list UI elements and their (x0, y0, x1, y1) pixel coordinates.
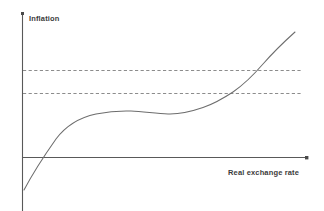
x-axis-arrow-icon (305, 156, 308, 159)
inflation-real-exchange-rate-chart: Inflation Real exchange rate (0, 0, 324, 211)
y-axis-label: Inflation (29, 14, 60, 23)
y-axis-arrow-icon (21, 12, 24, 15)
inflation-response-curve (24, 32, 295, 190)
plot-area (0, 0, 324, 211)
x-axis-label: Real exchange rate (228, 168, 299, 177)
